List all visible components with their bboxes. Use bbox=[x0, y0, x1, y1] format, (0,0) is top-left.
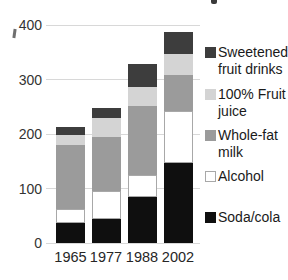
bar-segment-1988-100-fruit-juice bbox=[128, 87, 157, 106]
y-tick-label-0: 0 bbox=[8, 236, 42, 250]
bar-segment-2002-sweetened-fruit-drinks bbox=[164, 32, 193, 54]
bar-segment-1988-sweetened-fruit-drinks bbox=[128, 64, 157, 86]
bar-segment-1965-100-fruit-juice bbox=[56, 135, 85, 146]
bar-segment-2002-whole-fat-milk bbox=[164, 75, 193, 110]
legend-label: 100% Fruitjuice bbox=[218, 86, 286, 120]
x-tick-label-2002: 2002 bbox=[158, 249, 198, 265]
y-tick-label-200: 200 bbox=[8, 127, 42, 141]
left-edge-artifact bbox=[12, 29, 16, 38]
x-tick-label-1965: 1965 bbox=[51, 249, 91, 265]
legend-label: Alcohol bbox=[218, 168, 264, 185]
legend-swatch-icon bbox=[205, 47, 216, 58]
legend-swatch-icon bbox=[205, 130, 216, 141]
bar-segment-2002-alcohol bbox=[164, 111, 193, 163]
legend-label: Whole-fatmilk bbox=[218, 127, 278, 161]
bar-segment-1988-alcohol bbox=[128, 175, 157, 197]
x-tick-label-1977: 1977 bbox=[86, 249, 126, 265]
x-tick-label-1988: 1988 bbox=[122, 249, 162, 265]
legend-label: Soda/cola bbox=[218, 209, 280, 226]
bar-segment-1977-sweetened-fruit-drinks bbox=[92, 108, 121, 117]
bar-segment-1977-100-fruit-juice bbox=[92, 118, 121, 137]
bar-segment-1977-whole-fat-milk bbox=[92, 137, 121, 192]
legend-swatch-icon bbox=[205, 89, 216, 100]
legend-swatch-icon bbox=[205, 212, 216, 223]
bar-segment-1965-alcohol bbox=[56, 209, 85, 223]
bar-segment-2002-soda-cola bbox=[164, 163, 193, 243]
gridline-400 bbox=[46, 25, 200, 26]
stacked-bar-chart: 0100200300400 1965197719882002 Sweetened… bbox=[0, 0, 288, 280]
bar-segment-1965-sweetened-fruit-drinks bbox=[56, 127, 85, 135]
bar-segment-1977-soda-cola bbox=[92, 219, 121, 243]
bar-segment-2002-100-fruit-juice bbox=[164, 54, 193, 75]
bar-segment-1988-whole-fat-milk bbox=[128, 106, 157, 175]
cropped-title-fragment bbox=[211, 0, 217, 4]
bar-segment-1965-whole-fat-milk bbox=[56, 145, 85, 209]
y-tick-label-300: 300 bbox=[8, 73, 42, 87]
bar-segment-1988-soda-cola bbox=[128, 197, 157, 243]
legend-label: Sweetenedfruit drinks bbox=[218, 44, 288, 78]
bar-segment-1965-soda-cola bbox=[56, 223, 85, 243]
y-tick-label-100: 100 bbox=[8, 182, 42, 196]
bar-segment-1977-alcohol bbox=[92, 191, 121, 219]
legend-swatch-icon bbox=[205, 171, 216, 182]
